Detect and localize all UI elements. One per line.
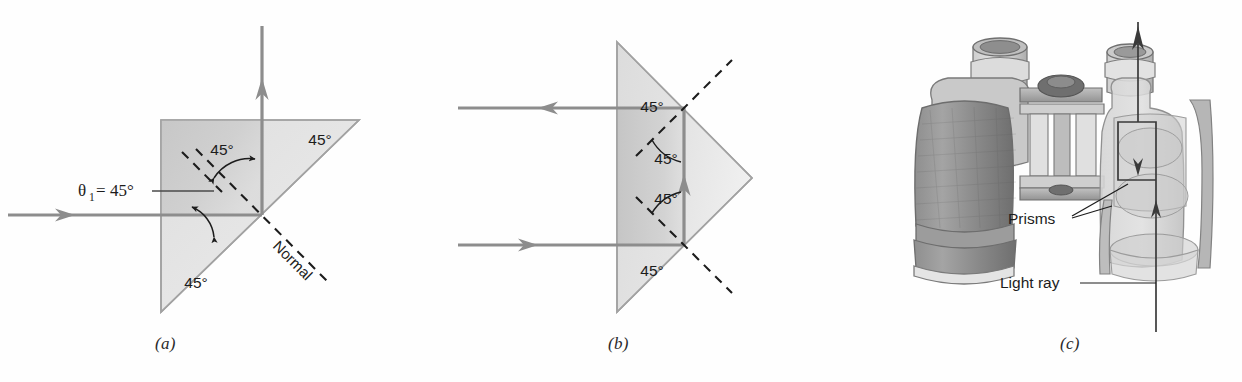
theta-equals-a: = bbox=[96, 181, 106, 200]
theta-value-a: 45° bbox=[110, 181, 134, 200]
caption-a: (a) bbox=[155, 334, 176, 354]
angle-label-reflection-a: 45° bbox=[210, 141, 233, 158]
hinge-pillar-left bbox=[1030, 114, 1048, 176]
angle-label-lower-reflection-b: 45° bbox=[654, 190, 677, 207]
angle-label-upper-interior-b: 45° bbox=[640, 98, 663, 115]
left-barrel-body bbox=[915, 101, 1013, 234]
normal-label-a: Normal bbox=[270, 237, 316, 283]
theta-symbol-a: θ bbox=[78, 181, 86, 200]
left-eyepiece-lens bbox=[980, 41, 1020, 54]
caption-b: (b) bbox=[608, 334, 629, 354]
theta-subscript-a: 1 bbox=[89, 191, 95, 203]
angle-label-bottom-left-a: 45° bbox=[184, 274, 207, 291]
hinge-pin-lower bbox=[1049, 185, 1073, 195]
panel-a: Normal 45° 45° 45° θ 1 = 45° bbox=[0, 0, 420, 340]
center-focus-knob-top bbox=[1047, 76, 1075, 88]
prisms-label: Prisms bbox=[1008, 210, 1056, 227]
panel-c-svg: Prisms Light ray bbox=[860, 0, 1242, 340]
angle-label-lower-interior-b: 45° bbox=[640, 262, 663, 279]
light-ray-label: Light ray bbox=[1000, 274, 1060, 291]
prism-upper-shape bbox=[1118, 128, 1182, 168]
panel-b: 45° 45° 45° 45° bbox=[440, 0, 860, 340]
panel-a-svg: Normal 45° 45° 45° θ 1 = 45° bbox=[0, 0, 420, 340]
right-eyepiece-lens bbox=[1114, 47, 1146, 58]
angle-label-top-right-a: 45° bbox=[308, 131, 331, 148]
angle-label-upper-reflection-b: 45° bbox=[654, 150, 677, 167]
physics-figure-total-internal-reflection: Normal 45° 45° 45° θ 1 = 45° (a) bbox=[0, 0, 1242, 382]
panel-b-svg: 45° 45° 45° 45° bbox=[440, 0, 860, 340]
beam-overlap-region-b bbox=[617, 108, 684, 245]
hinge-pillar-center bbox=[1054, 114, 1070, 176]
bridge-plate-upper bbox=[1020, 104, 1104, 114]
caption-c: (c) bbox=[1060, 334, 1080, 354]
panel-c: Prisms Light ray bbox=[860, 0, 1242, 340]
hinge-pillar-right bbox=[1076, 114, 1096, 176]
